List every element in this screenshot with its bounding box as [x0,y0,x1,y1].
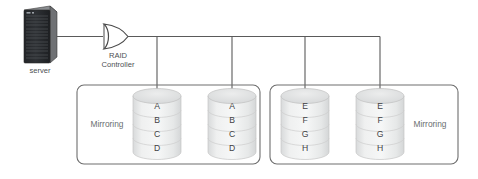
disk-4-platter-2: G [377,129,384,139]
disk-4-platter-0: E [377,101,383,111]
disk-1-platter-0: A [154,101,160,111]
disk-4: E F G H [356,89,404,160]
diagram-canvas: server RAID Controller Mirroring A B C [0,0,478,179]
disk-2: A B C D [208,89,256,160]
disk-3: E F G H [281,89,329,160]
disk-4-platter-1: F [377,115,382,125]
disk-2-platter-2: C [229,129,235,139]
disk-3-platter-2: G [302,129,309,139]
server-label: server [29,66,51,75]
disk-3-platter-0: E [302,101,308,111]
disk-2-platter-1: B [229,115,235,125]
disk-3-platter-3: H [302,143,308,153]
server-tower-icon [24,6,57,63]
disk-4-platter-3: H [377,143,383,153]
disk-1-platter-3: D [154,143,160,153]
disk-1-platter-2: C [154,129,160,139]
disk-1-platter-1: B [154,115,160,125]
disk-3-platter-1: F [302,115,307,125]
disk-2-platter-3: D [229,143,235,153]
raid-diagram: server RAID Controller Mirroring A B C [0,0,478,179]
controller-label-line1: RAID [109,51,128,60]
left-mirroring-label: Mirroring [90,119,123,129]
disk-2-platter-0: A [229,101,235,111]
controller-label-line2: Controller [102,60,135,69]
right-mirroring-label: Mirroring [413,119,446,129]
disk-1: A B C D [133,89,181,160]
raid-controller-gate-icon [104,24,128,49]
